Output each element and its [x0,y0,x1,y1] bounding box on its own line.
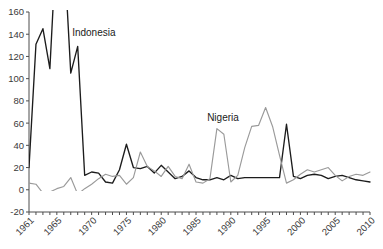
y-tick-label: 120 [8,51,24,62]
x-tick-label: 1965 [41,215,64,238]
y-tick-label: 140 [8,29,24,40]
y-tick-label: 100 [8,73,24,84]
y-tick-label: 160 [8,6,24,17]
y-tick-label: 40 [13,140,24,151]
y-tick-label: 20 [13,162,24,173]
annotation-nigeria: Nigeria [207,112,239,123]
series-line-nigeria [29,108,370,195]
y-axis-tick-labels: -20020406080100120140160 [8,6,24,217]
series-annotations: IndonesiaNigeria [72,27,239,122]
x-axis-tick-labels: 1961196519701975198019851990199520002005… [13,215,377,238]
x-tick-label: 1961 [13,215,36,238]
y-tick-label: 0 [19,184,24,195]
x-tick-label: 1970 [76,215,99,238]
y-tick-label: 60 [13,118,24,129]
y-tick-label: 80 [13,95,24,106]
x-tick-label: 2000 [285,215,308,238]
x-tick-label: 1995 [250,215,273,238]
y-tick-label: -20 [10,206,24,217]
x-tick-label: 2010 [354,215,377,238]
annotation-indonesia: Indonesia [72,27,116,38]
x-tick-label: 2005 [319,215,342,238]
x-tick-label: 1975 [111,215,134,238]
x-tick-label: 1980 [145,215,168,238]
x-tick-label: 1985 [180,215,203,238]
x-tick-label: 1990 [215,215,238,238]
chart-container: -20020406080100120140160 196119651970197… [0,0,383,249]
line-chart: -20020406080100120140160 196119651970197… [0,0,383,249]
